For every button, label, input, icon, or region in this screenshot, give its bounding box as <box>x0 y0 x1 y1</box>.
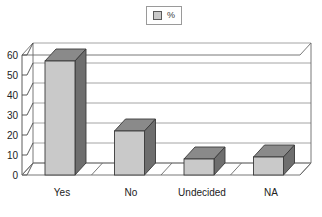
bar-yes <box>45 49 86 175</box>
y-leader-10 <box>27 143 33 155</box>
bar-front-face <box>184 159 214 175</box>
depth-edge-top-right <box>300 43 311 55</box>
bar-front-face <box>115 131 145 175</box>
bar-chart: % <box>0 0 322 217</box>
x-axis-label-yes: Yes <box>54 187 70 198</box>
y-tick-label-50: 50 <box>7 70 19 81</box>
bar-na <box>254 145 295 175</box>
x-axis-label-undecided: Undecided <box>178 187 226 198</box>
y-tick-label-10: 10 <box>7 150 19 161</box>
y-tick-label-40: 40 <box>7 90 19 101</box>
y-leader-40 <box>27 83 33 95</box>
x-axis-label-no: No <box>125 187 138 198</box>
bar-side-face <box>75 49 86 175</box>
floor-divider-2 <box>161 163 172 175</box>
y-leader-50 <box>27 63 33 75</box>
bar-front-face <box>254 157 284 175</box>
plot-area: 60 50 40 30 20 10 0 Yes No Undecided NA <box>0 0 322 217</box>
bar-no <box>115 119 156 175</box>
y-tick-label-60: 60 <box>7 50 19 61</box>
floor-divider-4 <box>300 163 311 175</box>
y-leader-20 <box>27 123 33 135</box>
x-axis-label-na: NA <box>264 187 278 198</box>
floor-divider-1 <box>92 163 103 175</box>
y-axis <box>22 43 33 175</box>
y-tick-label-20: 20 <box>7 130 19 141</box>
bar-front-face <box>45 61 75 175</box>
y-tick-label-30: 30 <box>7 110 19 121</box>
floor-divider-3 <box>231 163 242 175</box>
bar-undecided <box>184 147 225 175</box>
y-tick-label-0: 0 <box>12 170 18 181</box>
y-leader-30 <box>27 103 33 115</box>
